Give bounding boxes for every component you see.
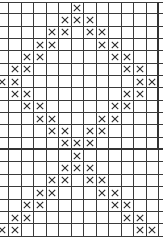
cross-stitch-icon: [147, 76, 158, 87]
cross-stitch-icon: [34, 113, 46, 124]
chart-cell: [22, 138, 35, 150]
chart-cell: [9, 212, 22, 224]
chart-cell: [59, 162, 72, 174]
chart-cell: [34, 27, 47, 39]
chart-cell: [97, 14, 110, 26]
cross-stitch-icon: [84, 27, 96, 38]
chart-cell: [34, 200, 47, 212]
chart-cell: [122, 175, 135, 187]
chart-cell: [97, 88, 110, 100]
chart-cell: [72, 187, 85, 199]
chart-cell: [59, 224, 72, 236]
cross-stitch-icon: [122, 212, 134, 223]
chart-cell: [134, 88, 147, 100]
chart-cell: [122, 224, 135, 236]
chart-cell: [47, 138, 60, 150]
chart-cell: [0, 138, 9, 150]
chart-cell: [147, 27, 160, 39]
chart-cell: [134, 125, 147, 137]
cross-stitch-icon: [134, 88, 146, 99]
chart-cell: [134, 175, 147, 187]
chart-cell: [97, 150, 110, 162]
upper-chart-row: [0, 64, 163, 76]
chart-cell: [72, 39, 85, 51]
cross-stitch-icon: [34, 101, 46, 112]
chart-cell: [22, 27, 35, 39]
chart-cell: [147, 101, 160, 113]
chart-cell: [84, 51, 97, 63]
chart-cell: [9, 101, 22, 113]
chart-cell: [122, 113, 135, 125]
chart-cell: [134, 150, 147, 162]
chart-cell: [109, 76, 122, 88]
chart-cell: [159, 125, 163, 137]
chart-cell: [84, 162, 97, 174]
chart-cell: [122, 212, 135, 224]
chart-cell: [134, 212, 147, 224]
chart-cell: [84, 2, 97, 14]
chart-cell: [84, 212, 97, 224]
chart-cell: [84, 175, 97, 187]
chart-cell: [97, 64, 110, 76]
chart-cell: [84, 113, 97, 125]
chart-cell: [159, 39, 163, 51]
chart-cell: [9, 125, 22, 137]
chart-cell: [47, 200, 60, 212]
chart-cell: [84, 64, 97, 76]
chart-cell: [109, 64, 122, 76]
chart-cell: [34, 113, 47, 125]
chart-cell: [9, 150, 22, 162]
chart-cell: [47, 101, 60, 113]
cross-stitch-icon: [47, 175, 59, 186]
chart-cell: [59, 88, 72, 100]
chart-cell: [134, 113, 147, 125]
cross-stitch-icon: [9, 64, 21, 75]
cross-stitch-icon: [9, 88, 21, 99]
chart-cell: [22, 187, 35, 199]
chart-cell: [22, 200, 35, 212]
chart-cell: [159, 162, 163, 174]
chart-cell: [9, 64, 22, 76]
cross-stitch-icon: [0, 224, 8, 235]
chart-cell: [84, 76, 97, 88]
lower-chart-row: [0, 150, 163, 162]
chart-cell: [34, 101, 47, 113]
chart-cell: [122, 64, 135, 76]
chart-cell: [109, 14, 122, 26]
chart-cell: [34, 2, 47, 14]
chart-cell: [147, 138, 160, 150]
cross-stitch-icon: [97, 27, 109, 38]
chart-cell: [59, 2, 72, 14]
chart-cell: [72, 162, 85, 174]
chart-cell: [159, 187, 163, 199]
chart-cell: [134, 2, 147, 14]
cross-stitch-icon: [9, 224, 21, 235]
chart-cell: [134, 101, 147, 113]
chart-cell: [47, 113, 60, 125]
cross-stitch-icon: [122, 101, 134, 112]
cross-stitch-icon: [59, 175, 71, 186]
chart-cell: [59, 27, 72, 39]
chart-cell: [147, 76, 160, 88]
cross-stitch-icon: [59, 138, 71, 148]
chart-cell: [159, 224, 163, 236]
chart-cell: [9, 138, 22, 150]
cross-stitch-icon: [122, 200, 134, 211]
chart-cell: [34, 138, 47, 150]
chart-cell: [109, 175, 122, 187]
chart-cell: [159, 138, 163, 150]
chart-cell: [72, 224, 85, 236]
chart-cell: [122, 76, 135, 88]
chart-cell: [34, 162, 47, 174]
upper-chart-row: [0, 51, 163, 63]
chart-cell: [72, 150, 85, 162]
chart-cell: [22, 76, 35, 88]
cross-stitch-icon: [59, 14, 71, 25]
chart-cell: [0, 212, 9, 224]
cross-stitch-icon: [22, 212, 34, 223]
chart-cell: [147, 64, 160, 76]
chart-cell: [134, 27, 147, 39]
chart-cell: [59, 101, 72, 113]
chart-cell: [159, 27, 163, 39]
cross-stitch-icon: [59, 162, 71, 173]
